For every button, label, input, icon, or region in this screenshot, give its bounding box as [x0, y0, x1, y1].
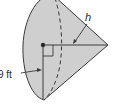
cone-diagram: h 9 ft	[0, 0, 116, 111]
cone-surface	[23, 0, 108, 100]
center-point	[41, 43, 45, 47]
slant-height-label: h	[85, 11, 91, 23]
radius-label: 9 ft	[0, 69, 12, 80]
